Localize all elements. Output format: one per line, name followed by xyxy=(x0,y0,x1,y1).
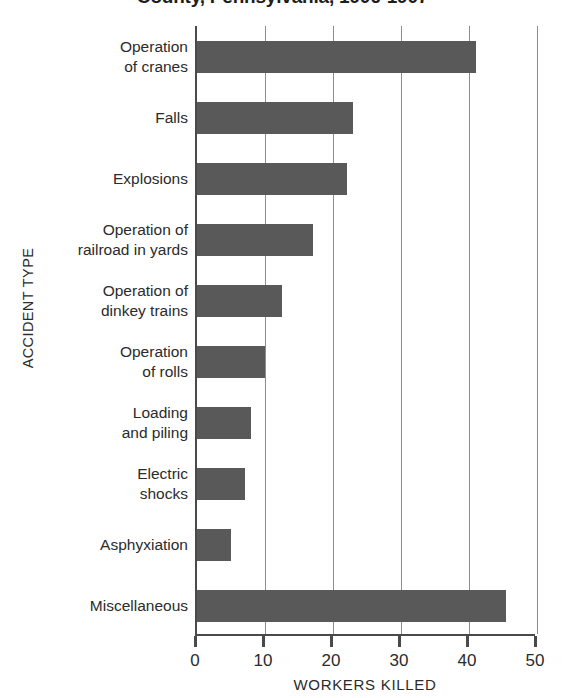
y-axis-tick-label-line: Operation of xyxy=(5,281,188,301)
y-axis-tick-label: Operation ofdinkey trains xyxy=(5,281,188,320)
y-axis-tick-label: Electricshocks xyxy=(5,464,188,503)
x-axis-tick xyxy=(262,636,265,647)
y-axis-tick-label: Operationof cranes xyxy=(5,37,188,76)
x-axis-tick-label: 0 xyxy=(175,651,215,671)
y-axis-tick-label: Asphyxiation xyxy=(5,535,188,555)
chart-title: County, Pennsylvania, 1906-1907 xyxy=(0,0,565,10)
y-axis-tick-label: Miscellaneous xyxy=(5,596,188,616)
y-axis-tick-label: Falls xyxy=(5,108,188,128)
x-axis-tick xyxy=(398,636,401,647)
y-axis-tick-label-line: Operation of xyxy=(5,220,188,240)
y-axis-tick-label-line: Falls xyxy=(5,108,188,128)
y-axis-tick-label-line: Operation xyxy=(5,37,188,57)
x-axis-tick-label: 20 xyxy=(311,651,351,671)
x-axis-tick xyxy=(466,636,469,647)
plot-area xyxy=(195,26,535,636)
bar xyxy=(197,468,245,500)
y-axis-tick-label-line: Loading xyxy=(5,403,188,423)
x-axis-tick-label: 10 xyxy=(243,651,283,671)
x-axis-tick-label: 50 xyxy=(515,651,555,671)
bar-row xyxy=(197,453,535,514)
bar-row xyxy=(197,575,535,636)
y-axis-tick-label-line: of cranes xyxy=(5,57,188,77)
y-axis-tick-label-line: dinkey trains xyxy=(5,301,188,321)
y-axis-tick-label-line: Explosions xyxy=(5,169,188,189)
y-axis-tick-label-line: Electric xyxy=(5,464,188,484)
y-axis-tick-label-line: of rolls xyxy=(5,362,188,382)
x-axis-title: WORKERS KILLED xyxy=(195,676,535,693)
bar xyxy=(197,346,265,378)
y-axis-tick-label: Operation ofrailroad in yards xyxy=(5,220,188,259)
bar-row xyxy=(197,392,535,453)
bar xyxy=(197,529,231,561)
bar-row xyxy=(197,26,535,87)
y-axis-tick-label: Operationof rolls xyxy=(5,342,188,381)
x-axis-tick-label: 40 xyxy=(447,651,487,671)
y-axis-tick-label: Loadingand piling xyxy=(5,403,188,442)
y-axis-tick-label-line: Miscellaneous xyxy=(5,596,188,616)
bar-row xyxy=(197,514,535,575)
bar xyxy=(197,163,347,195)
y-axis-tick-label-line: Operation xyxy=(5,342,188,362)
bar xyxy=(197,41,476,73)
x-axis-tick xyxy=(194,636,197,647)
x-axis-tick xyxy=(330,636,333,647)
bar xyxy=(197,407,251,439)
bar xyxy=(197,590,506,622)
gridline xyxy=(537,26,538,634)
bar-row xyxy=(197,331,535,392)
bar-row xyxy=(197,87,535,148)
bar xyxy=(197,102,353,134)
bar-row xyxy=(197,148,535,209)
bar-row xyxy=(197,209,535,270)
bar xyxy=(197,285,282,317)
y-axis-tick-label-line: and piling xyxy=(5,423,188,443)
y-axis-tick-label-line: shocks xyxy=(5,484,188,504)
bar-row xyxy=(197,270,535,331)
bar-chart-figure: County, Pennsylvania, 1906-1907 ACCIDENT… xyxy=(0,0,565,698)
x-axis-tick-label: 30 xyxy=(379,651,419,671)
bar xyxy=(197,224,313,256)
x-axis-tick xyxy=(534,636,537,647)
y-axis-tick-label: Explosions xyxy=(5,169,188,189)
y-axis-tick-label-line: Asphyxiation xyxy=(5,535,188,555)
y-axis-tick-label-line: railroad in yards xyxy=(5,240,188,260)
